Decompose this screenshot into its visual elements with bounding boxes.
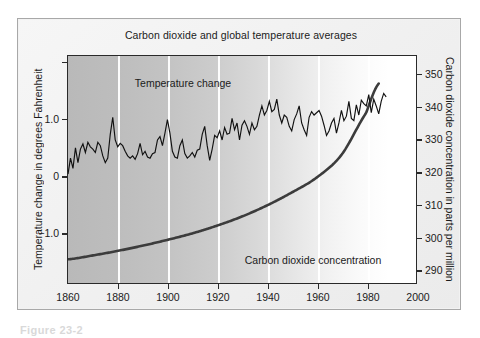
y2-tick-mark bbox=[416, 172, 422, 173]
x-tick-label-1900: 1900 bbox=[156, 291, 179, 303]
plot-area: −1.001.0 290300310320330340350 186018801… bbox=[67, 55, 417, 284]
y-axis-title: Temperature change in degrees Fahrenheit bbox=[32, 55, 44, 284]
x-tick-mark bbox=[268, 283, 269, 289]
y2-tick-mark bbox=[416, 139, 422, 140]
chart-title: Carbon dioxide and global temperature av… bbox=[19, 29, 463, 41]
y2-tick-mark bbox=[416, 205, 422, 206]
y2-tick-label-290: 290 bbox=[425, 264, 443, 276]
y-tick-label-1.0: 1.0 bbox=[44, 113, 59, 125]
y-tick-mark bbox=[62, 176, 68, 177]
x-tick-label-1880: 1880 bbox=[106, 291, 129, 303]
y2-tick-label-310: 310 bbox=[425, 199, 443, 211]
series-annotation: Temperature change bbox=[135, 77, 231, 89]
y-tick-mark bbox=[62, 233, 68, 234]
y-tick-label-0: 0 bbox=[53, 170, 59, 182]
x-tick-mark bbox=[118, 283, 119, 289]
x-tick-mark bbox=[318, 283, 319, 289]
y2-tick-label-320: 320 bbox=[425, 166, 443, 178]
co2-concentration-curve bbox=[68, 84, 379, 260]
x-tick-mark bbox=[368, 283, 369, 289]
figure-root: Carbon dioxide and global temperature av… bbox=[0, 0, 480, 338]
y2-tick-mark bbox=[416, 74, 422, 75]
y-tick-label-−1.0: −1.0 bbox=[38, 227, 59, 239]
y2-tick-mark bbox=[416, 270, 422, 271]
y-minor-tick-mark bbox=[62, 62, 68, 63]
figure-panel-background: Carbon dioxide and global temperature av… bbox=[19, 20, 459, 308]
plot-series-svg bbox=[68, 56, 416, 283]
y-tick-mark bbox=[62, 119, 68, 120]
figure-panel: Carbon dioxide and global temperature av… bbox=[17, 18, 461, 310]
x-tick-label-2000: 2000 bbox=[406, 291, 429, 303]
x-tick-mark bbox=[218, 283, 219, 289]
y2-tick-mark bbox=[416, 238, 422, 239]
y2-tick-label-330: 330 bbox=[425, 133, 443, 145]
temperature-change-line bbox=[68, 93, 386, 174]
y2-tick-mark bbox=[416, 107, 422, 108]
x-tick-label-1920: 1920 bbox=[206, 291, 229, 303]
y2-tick-label-300: 300 bbox=[425, 232, 443, 244]
y2-axis-title: Carbon dioxide concentration in parts pe… bbox=[444, 55, 456, 284]
x-tick-label-1940: 1940 bbox=[256, 291, 279, 303]
series-annotation: Carbon dioxide concentration bbox=[245, 254, 382, 266]
y2-tick-label-350: 350 bbox=[425, 68, 443, 80]
figure-caption: Figure 23-2 bbox=[20, 324, 83, 337]
x-tick-mark bbox=[168, 283, 169, 289]
y2-tick-label-340: 340 bbox=[425, 101, 443, 113]
x-tick-label-1980: 1980 bbox=[356, 291, 379, 303]
x-tick-label-1960: 1960 bbox=[306, 291, 329, 303]
x-tick-label-1860: 1860 bbox=[56, 291, 79, 303]
